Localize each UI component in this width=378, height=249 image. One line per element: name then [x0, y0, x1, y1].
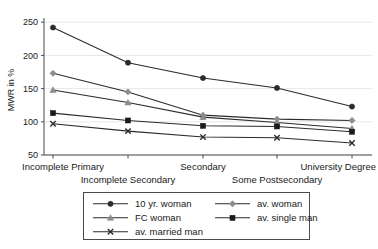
data-point-square-marker [350, 129, 355, 134]
x-axis-labels: Incomplete PrimaryIncomplete SecondarySe… [22, 161, 376, 185]
y-tick-label: 250 [23, 17, 38, 27]
data-point-diamond-marker [349, 117, 355, 123]
data-point-diamond-marker [125, 89, 131, 95]
series-0 [50, 25, 354, 109]
data-point-square-marker [126, 118, 131, 123]
series-line [53, 28, 352, 107]
data-point-circle-marker [50, 25, 55, 30]
data-point-triangle-marker [50, 87, 56, 93]
x-axis-ticks [53, 155, 352, 159]
data-point-square-marker [230, 215, 235, 220]
y-tick-label: 100 [23, 117, 38, 127]
legend-item-label: av. married man [135, 226, 203, 237]
y-tick-label: 200 [23, 51, 38, 61]
x-axis-category-label: Secondary [180, 161, 226, 172]
y-tick-label: 150 [23, 84, 38, 94]
series-layer [50, 25, 355, 146]
y-axis-title: MWR in % [6, 69, 16, 112]
legend-item-label: av. single man [257, 212, 318, 223]
y-axis-ticks: 50100150200250 [23, 17, 44, 160]
legend-item-label: av. woman [257, 198, 302, 209]
data-point-circle-marker [349, 104, 354, 109]
chart-figure: 50100150200250 MWR in % Incomplete Prima… [0, 0, 378, 249]
data-point-diamond-marker [50, 70, 56, 76]
line-chart: 50100150200250 MWR in % Incomplete Prima… [0, 0, 378, 249]
data-point-circle-marker [125, 60, 130, 65]
legend-item-label: FC woman [135, 212, 181, 223]
data-point-circle-marker [274, 85, 279, 90]
data-point-circle-marker [108, 201, 113, 206]
x-axis-category-label: University Degree [301, 161, 377, 172]
x-axis-category-label: Incomplete Secondary [81, 174, 176, 185]
data-point-square-marker [201, 123, 206, 128]
data-point-square-marker [51, 111, 56, 116]
data-point-circle-marker [200, 75, 205, 80]
x-axis-category-label: Incomplete Primary [22, 161, 104, 172]
data-point-square-marker [275, 124, 280, 129]
y-tick-label: 50 [28, 150, 38, 160]
legend-item-label: 10 yr. woman [135, 198, 192, 209]
gridlines [44, 22, 372, 155]
x-axis-category-label: Some Postsecondary [232, 174, 323, 185]
